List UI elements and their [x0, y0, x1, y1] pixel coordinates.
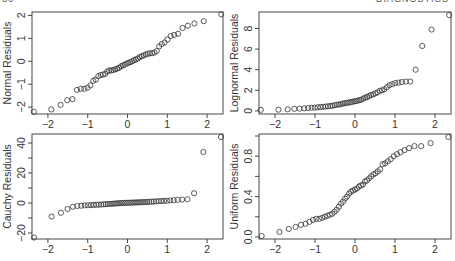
- data-point: [277, 229, 282, 234]
- x-tick-label: 0: [352, 118, 358, 130]
- data-point: [286, 226, 291, 231]
- y-tick-label: 1: [15, 35, 27, 41]
- data-point: [180, 25, 185, 30]
- data-point: [429, 27, 434, 32]
- data-point: [192, 21, 197, 26]
- x-tick-label: −2: [269, 243, 281, 255]
- x-tick-label: −2: [269, 118, 281, 130]
- data-point: [406, 146, 411, 151]
- y-axis-label: Uniform Residuals: [228, 144, 240, 230]
- x-tick-label: 2: [432, 118, 438, 130]
- y-tick-label: 0.0: [242, 230, 254, 245]
- y-tick-label: −2: [15, 101, 27, 113]
- y-tick-label: 0: [15, 200, 27, 206]
- data-point: [82, 86, 87, 91]
- x-tick-label: 2: [204, 118, 210, 130]
- x-tick-label: 2: [204, 243, 210, 255]
- data-point: [314, 216, 319, 221]
- x-tick-label: 0: [125, 118, 131, 130]
- y-tick-label: 8: [242, 25, 254, 31]
- data-point: [201, 19, 206, 24]
- y-tick-label: 0.8: [242, 149, 254, 164]
- y-tick-label: 4: [242, 67, 254, 73]
- data-point: [276, 107, 281, 112]
- y-tick-label: 20: [15, 167, 27, 179]
- x-tick-label: 0: [352, 243, 358, 255]
- y-tick-label: −20: [15, 224, 27, 242]
- data-point: [412, 144, 417, 149]
- y-tick-label: 0: [242, 108, 254, 114]
- x-tick-label: −1: [309, 118, 321, 130]
- data-point: [58, 210, 63, 215]
- uniform-qq-panel: −2−10120.00.40.8Uniform Residuals: [228, 134, 451, 255]
- x-tick-label: −2: [42, 118, 54, 130]
- qq-plot-grid: −2−1012−2−1012Normal Residuals−2−1012024…: [0, 0, 455, 261]
- y-tick-label: 2: [15, 12, 27, 18]
- data-point: [201, 149, 206, 154]
- y-tick-label: 0.4: [242, 189, 254, 204]
- data-point: [65, 98, 70, 103]
- x-tick-label: 1: [164, 243, 170, 255]
- data-point: [419, 144, 424, 149]
- x-tick-label: −1: [82, 243, 94, 255]
- y-tick-label: 40: [15, 137, 27, 149]
- x-tick-label: −2: [42, 243, 54, 255]
- lognormal-qq-panel: −2−101202468Lognormal Residuals: [228, 12, 452, 130]
- y-axis-label: Lognormal Residuals: [228, 14, 240, 113]
- x-tick-label: 0: [125, 243, 131, 255]
- data-point: [165, 37, 170, 42]
- data-point: [292, 106, 297, 111]
- x-tick-label: 2: [432, 243, 438, 255]
- data-point: [49, 214, 54, 219]
- data-point: [413, 67, 418, 72]
- x-tick-label: −1: [309, 243, 321, 255]
- data-point: [446, 134, 451, 139]
- y-tick-label: 6: [242, 46, 254, 52]
- y-axis-label: Cauchy Residuals: [1, 144, 13, 229]
- y-tick-label: −1: [15, 78, 27, 90]
- normal-qq-panel: −2−1012−2−1012Normal Residuals: [1, 12, 224, 130]
- data-point: [428, 140, 433, 145]
- cauchy-qq-panel: −2−1012−2002040Cauchy Residuals: [1, 134, 224, 255]
- x-tick-label: 1: [392, 243, 398, 255]
- data-point: [70, 97, 75, 102]
- plot-frame: [32, 134, 223, 239]
- data-point: [293, 224, 298, 229]
- data-point: [259, 233, 264, 238]
- data-point: [185, 23, 190, 28]
- x-tick-label: −1: [82, 118, 94, 130]
- data-point: [191, 191, 196, 196]
- data-point: [285, 107, 290, 112]
- data-point: [420, 43, 425, 48]
- data-point: [65, 206, 70, 211]
- y-tick-label: 0: [15, 58, 27, 64]
- x-tick-label: 1: [392, 118, 398, 130]
- y-tick-label: 2: [242, 87, 254, 93]
- data-point: [185, 197, 190, 202]
- data-point: [58, 102, 63, 107]
- data-point: [168, 33, 173, 38]
- x-tick-label: 1: [164, 118, 170, 130]
- data-point: [49, 107, 54, 112]
- y-axis-label: Normal Residuals: [1, 22, 13, 105]
